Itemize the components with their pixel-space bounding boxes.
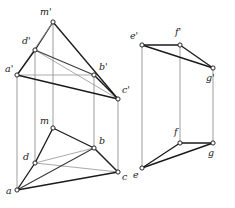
vertex-a (15, 188, 19, 192)
label-d: d (23, 151, 29, 162)
vertex-e_prime (140, 43, 144, 47)
edge-m_prime-c_prime (53, 22, 118, 99)
edge-d_prime-c_prime (35, 50, 118, 99)
edge-f_prime-g_prime (180, 45, 213, 68)
label-a_prime: a' (5, 63, 13, 74)
vertex-b (92, 146, 96, 150)
vertex-g_prime (211, 66, 215, 70)
edge-d-b (35, 148, 94, 163)
label-e_prime: e' (130, 30, 138, 41)
edge-d_prime-b_prime (35, 50, 94, 75)
label-m_prime: m' (40, 6, 52, 17)
diagram-canvas: m'd'a'b'c'mdabce'f'g'efg (0, 0, 235, 208)
vertex-d (33, 161, 37, 165)
vertex-b_prime (92, 73, 96, 77)
vertex-m_prime (51, 20, 55, 24)
vertex-f_prime (178, 43, 182, 47)
edge-e_prime-g_prime (142, 45, 213, 68)
label-g: g (208, 147, 214, 158)
edge-e-f (142, 143, 180, 168)
vertex-e (140, 166, 144, 170)
vertex-g (211, 141, 215, 145)
label-c: c (122, 171, 128, 182)
vertex-c (116, 170, 120, 174)
label-g_prime: g' (206, 72, 215, 83)
vertex-f (178, 141, 182, 145)
projection-figure: m'd'a'b'c'mdabce'f'g'efg (0, 0, 235, 208)
edge-e-g (142, 143, 213, 168)
label-e: e (133, 169, 139, 180)
edge-a-c (17, 172, 118, 190)
edge-d_prime-a_prime (17, 50, 35, 75)
vertex-a_prime (15, 73, 19, 77)
vertex-c_prime (116, 97, 120, 101)
edge-m-b (53, 128, 94, 148)
vertex-d_prime (33, 48, 37, 52)
label-a: a (6, 185, 12, 196)
label-c_prime: c' (122, 84, 130, 95)
edge-d-a (17, 163, 35, 190)
edge-m-d (35, 128, 53, 163)
edge-b-c (94, 148, 118, 172)
vertex-m (51, 126, 55, 130)
label-d_prime: d' (22, 35, 31, 46)
label-f_prime: f' (174, 26, 181, 37)
label-m: m (40, 115, 49, 126)
label-b: b (99, 135, 105, 146)
vertex-markers (15, 20, 215, 192)
vertex-labels: m'd'a'b'c'mdabce'f'g'efg (5, 6, 215, 196)
label-b_prime: b' (99, 61, 108, 72)
edge-lines (17, 22, 213, 190)
edge-d-c (35, 163, 118, 172)
label-f: f (173, 126, 179, 137)
edge-a_prime-c_prime (17, 75, 118, 99)
